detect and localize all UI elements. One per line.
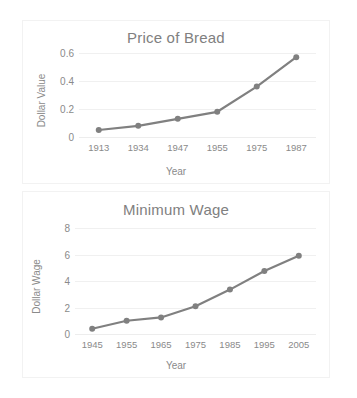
x-axis-tick-label: 1945 xyxy=(82,339,103,350)
y-axis-tick-label: 4 xyxy=(64,276,70,287)
x-axis-tick-label: 1955 xyxy=(207,142,228,153)
data-point-marker xyxy=(293,54,299,60)
data-point-marker xyxy=(96,127,102,133)
y-axis-tick-label: 0.6 xyxy=(60,48,74,59)
data-point-marker xyxy=(175,116,181,122)
x-axis-tick-label: 1985 xyxy=(219,339,240,350)
x-axis-tick-label: 1965 xyxy=(150,339,171,350)
data-point-marker xyxy=(254,84,260,90)
data-point-marker xyxy=(193,303,199,309)
chart-panel-minimum-wage: Minimum Wage Dollar Wage Year 0246819451… xyxy=(22,191,330,378)
chart-title: Price of Bread xyxy=(23,29,329,46)
chart-panel-price-of-bread: Price of Bread Dollar Value Year 00.20.4… xyxy=(22,20,330,184)
data-point-marker xyxy=(296,253,302,259)
x-axis-title: Year xyxy=(23,360,329,371)
x-axis-tick-label: 1975 xyxy=(246,142,267,153)
series-line xyxy=(92,256,299,329)
data-point-marker xyxy=(158,314,164,320)
plot-area: 00.20.40.6191319341947195519751987 xyxy=(79,53,316,137)
x-axis-tick-label: 1955 xyxy=(116,339,137,350)
x-axis-tick-label: 1975 xyxy=(185,339,206,350)
data-point-marker xyxy=(124,318,130,324)
x-axis-title: Year xyxy=(23,166,329,177)
y-axis-tick-label: 2 xyxy=(64,302,70,313)
y-axis-tick-label: 8 xyxy=(64,223,70,234)
x-axis-tick-label: 1913 xyxy=(88,142,109,153)
data-series xyxy=(75,228,316,334)
x-axis-tick-label: 1987 xyxy=(286,142,307,153)
x-axis-tick-label: 1947 xyxy=(167,142,188,153)
data-point-marker xyxy=(227,287,233,293)
gridline xyxy=(79,137,316,138)
plot-area: 024681945195519651975198519952005 xyxy=(75,228,316,334)
y-axis-title: Dollar Value xyxy=(36,74,47,128)
data-point-marker xyxy=(214,109,220,115)
x-axis-tick-label: 1934 xyxy=(128,142,149,153)
y-axis-tick-label: 6 xyxy=(64,249,70,260)
figure-page: Price of Bread Dollar Value Year 00.20.4… xyxy=(0,0,357,398)
data-point-marker xyxy=(135,123,141,129)
chart-title: Minimum Wage xyxy=(23,201,329,218)
y-axis-title: Dollar Wage xyxy=(31,259,42,314)
x-axis-tick-label: 1995 xyxy=(254,339,275,350)
data-point-marker xyxy=(89,326,95,332)
y-axis-tick-label: 0 xyxy=(68,132,74,143)
data-series xyxy=(79,53,316,137)
y-axis-tick-label: 0.2 xyxy=(60,104,74,115)
x-axis-tick-label: 2005 xyxy=(288,339,309,350)
data-point-marker xyxy=(261,268,267,274)
y-axis-tick-label: 0.4 xyxy=(60,76,74,87)
y-axis-tick-label: 0 xyxy=(64,329,70,340)
series-line xyxy=(99,57,297,130)
gridline xyxy=(75,334,316,335)
